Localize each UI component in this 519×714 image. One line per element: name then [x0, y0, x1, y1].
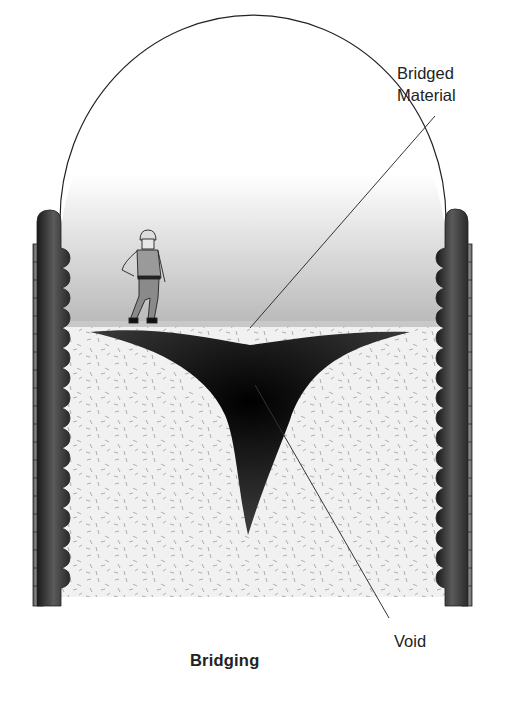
- bridged-material-label: Bridged Material: [397, 62, 497, 106]
- void-label: Void: [394, 632, 426, 651]
- diagram-title: Bridging: [190, 651, 259, 670]
- silo-dome-interior: [60, 50, 446, 325]
- bridged-material-label-line2: Material: [397, 84, 497, 106]
- bridging-diagram: [0, 0, 519, 714]
- bridged-material-label-line1: Bridged: [397, 62, 497, 84]
